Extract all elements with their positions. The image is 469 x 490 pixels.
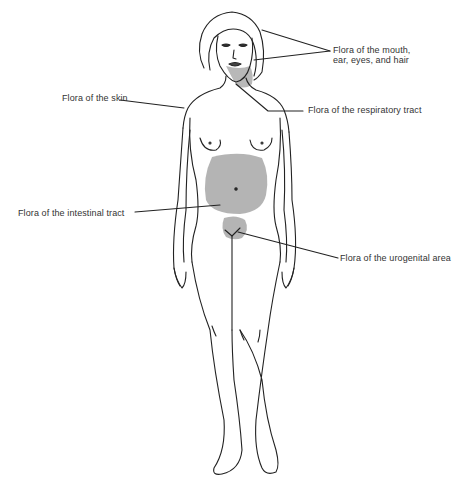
- label-skin: Flora of the skin: [62, 93, 128, 103]
- diagram-canvas: Flora of the mouth, ear, eyes, and hair …: [0, 0, 469, 490]
- mouth: [229, 63, 241, 67]
- body-figure: [0, 0, 469, 490]
- label-urogenital-area: Flora of the urogenital area: [340, 253, 451, 263]
- leader-mouth-a: [262, 30, 330, 51]
- label-line: Flora of the mouth,: [333, 45, 410, 55]
- leader-mouth-b: [254, 51, 330, 60]
- label-text: Flora of the skin: [62, 93, 128, 103]
- leader-urogenital: [238, 232, 338, 258]
- urogenital-region: [222, 216, 247, 239]
- label-line: ear, eyes, and hair: [333, 55, 410, 65]
- label-text: Flora of the urogenital area: [340, 253, 451, 263]
- leader-respiratory: [236, 84, 303, 111]
- eye-left: [222, 44, 230, 47]
- label-mouth-ear-eyes-hair: Flora of the mouth, ear, eyes, and hair: [333, 45, 410, 65]
- leader-skin: [120, 100, 184, 108]
- label-respiratory-tract: Flora of the respiratory tract: [308, 105, 422, 115]
- label-intestinal-tract: Flora of the intestinal tract: [18, 208, 124, 218]
- eye-right: [239, 44, 247, 47]
- label-text: Flora of the intestinal tract: [18, 208, 124, 218]
- label-text: Flora of the respiratory tract: [308, 105, 422, 115]
